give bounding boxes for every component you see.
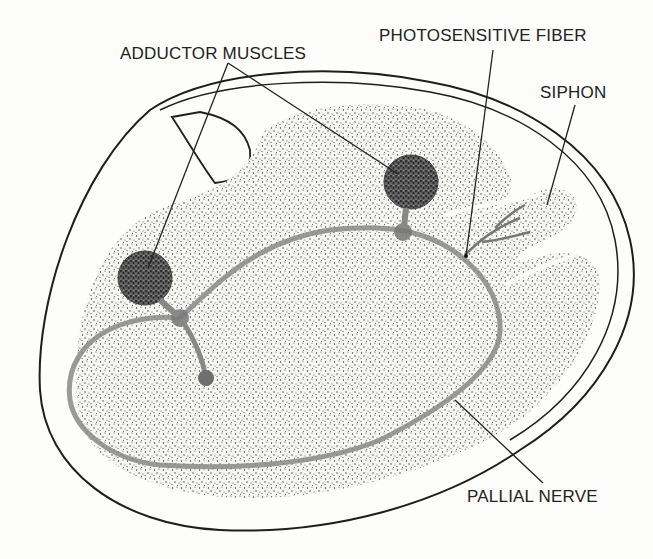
adductor-muscle-posterior [384,155,438,209]
muscle-connector-posterior [404,208,406,228]
label-siphon: SIPHON [540,83,606,103]
pedal-ganglion [198,370,214,386]
label-adductor-muscles: ADDUCTOR MUSCLES [120,44,306,64]
photosensitive-fiber-point [464,254,468,258]
label-photosensitive-fiber: PHOTOSENSITIVE FIBER [379,26,587,46]
adductor-muscle-anterior [118,251,172,305]
label-pallial-nerve: PALLIAL NERVE [467,487,598,507]
